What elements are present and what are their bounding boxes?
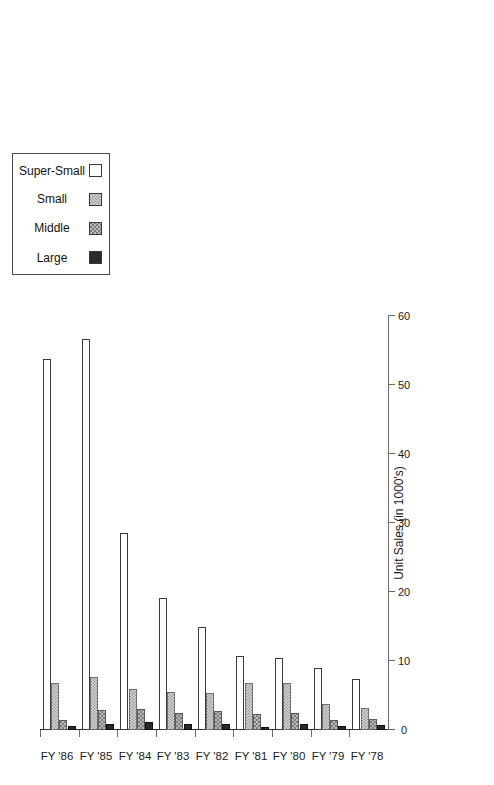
bar-small: [167, 692, 175, 730]
category-tick: [233, 730, 234, 737]
category-tick: [195, 730, 196, 737]
bar-middle: [214, 711, 222, 730]
category-label: FY '79: [308, 750, 348, 762]
legend-label: Super-Small: [19, 164, 85, 178]
category-tick: [117, 730, 118, 737]
bar-super-small: [198, 627, 206, 730]
category-tick: [311, 730, 312, 737]
bar-large: [106, 724, 114, 730]
solid-black-swatch: [89, 251, 102, 264]
legend-item-small: Small: [20, 192, 102, 207]
bar-small: [206, 693, 214, 730]
category-label: FY '81: [231, 750, 271, 762]
category-tick: [40, 730, 41, 737]
category-label: FY '82: [192, 750, 232, 762]
bar-middle: [59, 720, 67, 730]
medium-checker-swatch: [89, 222, 102, 235]
bar-super-small: [236, 656, 244, 730]
bar-large: [261, 727, 269, 730]
bar-super-small: [120, 533, 128, 730]
bar-middle: [291, 713, 299, 730]
bar-middle: [369, 719, 377, 730]
axis-title: Unit Sales (in 1000's): [392, 316, 406, 730]
value-axis: [388, 316, 389, 730]
bar-small: [361, 708, 369, 730]
category-label: FY '78: [347, 750, 387, 762]
bar-large: [300, 724, 308, 730]
bar-super-small: [352, 679, 360, 730]
category-tick: [79, 730, 80, 737]
legend-label: Small: [37, 192, 67, 206]
bar-small: [283, 683, 291, 730]
category-label: FY '85: [76, 750, 116, 762]
legend-item-large: Large: [20, 250, 102, 265]
bar-large: [68, 726, 76, 730]
category-label: FY '84: [115, 750, 155, 762]
bar-middle: [330, 720, 338, 730]
plot-area: 0102030405060 FY '78FY '79FY '80FY '81FY…: [40, 316, 388, 730]
bar-small: [51, 683, 59, 730]
legend-item-super-small: Super-Small: [20, 163, 102, 178]
bar-large: [184, 724, 192, 730]
category-label: FY '86: [37, 750, 77, 762]
bar-middle: [137, 709, 145, 730]
category-label: FY '83: [153, 750, 193, 762]
bar-large: [377, 725, 385, 730]
bar-middle: [98, 710, 106, 730]
bar-super-small: [159, 598, 167, 730]
white-swatch: [89, 164, 102, 177]
bar-small: [322, 704, 330, 730]
bar-super-small: [82, 339, 90, 730]
bar-super-small: [314, 668, 322, 730]
legend-item-middle: Middle: [20, 221, 102, 236]
bar-middle: [175, 713, 183, 730]
category-label: FY '80: [269, 750, 309, 762]
category-tick: [272, 730, 273, 737]
chart-legend: Large Middle Small Super-Small: [12, 153, 110, 275]
bar-small: [129, 689, 137, 730]
bar-large: [338, 726, 346, 730]
bar-large: [145, 722, 153, 730]
bar-middle: [253, 714, 261, 730]
legend-label: Large: [37, 250, 68, 264]
bar-super-small: [43, 359, 51, 730]
bar-large: [222, 724, 230, 730]
legend-label: Middle: [34, 221, 69, 235]
bar-super-small: [275, 658, 283, 730]
bar-small: [90, 677, 98, 730]
category-tick: [349, 730, 350, 737]
light-checker-swatch: [89, 193, 102, 206]
bar-small: [245, 683, 253, 730]
category-tick: [156, 730, 157, 737]
chart-figure: Large Middle Small Super-Small: [0, 0, 494, 785]
